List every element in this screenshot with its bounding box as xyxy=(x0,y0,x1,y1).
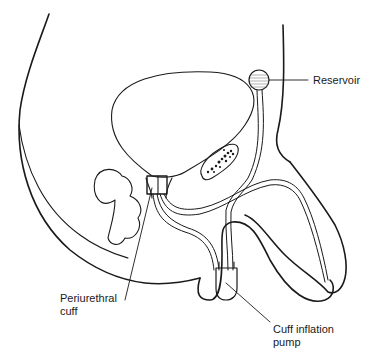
label-reservoir: Reservoir xyxy=(313,74,360,86)
tube-cuff-pump xyxy=(153,194,214,270)
label-pump-line1: Cuff inflation xyxy=(273,323,334,335)
reservoir-hatching xyxy=(250,75,268,87)
rectum xyxy=(94,169,140,244)
label-cuff-line1: Periurethral xyxy=(60,292,117,304)
periurethral-cuff xyxy=(147,176,167,194)
tube-reservoir-pump xyxy=(226,90,259,270)
penis xyxy=(245,162,346,293)
body-outline-back xyxy=(19,14,200,284)
leader-pump xyxy=(226,283,270,322)
urinary-sphincter-diagram: Reservoir Periurethral cuff Cuff inflati… xyxy=(0,0,366,361)
seminal-vesicle-dots xyxy=(207,149,234,173)
label-cuff-line2: cuff xyxy=(60,305,78,317)
label-pump-line2: pump xyxy=(273,336,301,348)
body-outline-inner xyxy=(19,125,128,258)
abdominal-wall xyxy=(277,25,291,162)
